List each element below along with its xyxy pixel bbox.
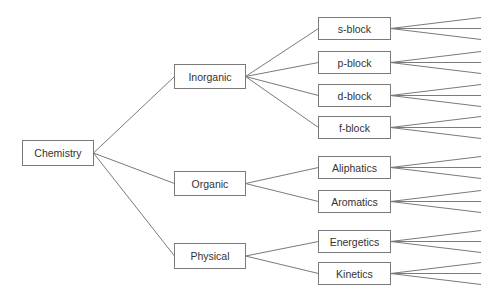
chemistry-tree-diagram: ChemistryInorganicOrganicPhysicals-block… (0, 0, 503, 300)
edges (94, 18, 482, 285)
edge-p-block-leaf-3 (391, 63, 482, 74)
node-label: d-block (338, 90, 373, 102)
node-label: Physical (190, 250, 229, 262)
node-aliphatics[interactable]: Aliphatics (319, 157, 391, 179)
node-energetics[interactable]: Energetics (319, 231, 391, 253)
edge-organic-aliphatics (246, 168, 319, 184)
edge-energetics-leaf-1 (391, 231, 482, 242)
node-label: f-block (339, 122, 371, 134)
edge-d-block-leaf-1 (391, 85, 482, 96)
node-s-block[interactable]: s-block (319, 18, 391, 40)
edge-kinetics-leaf-3 (391, 274, 482, 285)
node-f-block[interactable]: f-block (319, 117, 391, 139)
edge-f-block-leaf-3 (391, 128, 482, 139)
edge-aromatics-leaf-3 (391, 202, 482, 213)
edge-aliphatics-leaf-3 (391, 168, 482, 179)
node-label: Aliphatics (332, 162, 377, 174)
edge-inorganic-f-block (246, 77, 319, 128)
edge-aliphatics-leaf-1 (391, 157, 482, 168)
edge-kinetics-leaf-1 (391, 263, 482, 274)
edge-physical-kinetics (246, 256, 319, 274)
edge-d-block-leaf-3 (391, 96, 482, 107)
node-label: Chemistry (34, 147, 82, 159)
edge-s-block-leaf-1 (391, 18, 482, 29)
nodes: ChemistryInorganicOrganicPhysicals-block… (23, 18, 391, 285)
node-inorganic[interactable]: Inorganic (175, 65, 246, 89)
edge-energetics-leaf-3 (391, 242, 482, 253)
node-chemistry[interactable]: Chemistry (23, 141, 94, 166)
edge-chemistry-inorganic (94, 77, 175, 154)
node-label: Kinetics (336, 268, 373, 280)
edge-aromatics-leaf-1 (391, 191, 482, 202)
node-kinetics[interactable]: Kinetics (319, 263, 391, 285)
node-d-block[interactable]: d-block (319, 85, 391, 107)
node-physical[interactable]: Physical (175, 244, 246, 269)
node-label: s-block (338, 23, 372, 35)
edge-inorganic-d-block (246, 77, 319, 96)
node-label: p-block (338, 57, 373, 69)
edge-organic-aromatics (246, 184, 319, 202)
edge-f-block-leaf-1 (391, 117, 482, 128)
node-label: Organic (192, 178, 229, 190)
node-p-block[interactable]: p-block (319, 52, 391, 74)
node-aromatics[interactable]: Aromatics (319, 191, 391, 213)
edge-physical-energetics (246, 242, 319, 257)
node-label: Aromatics (331, 196, 378, 208)
node-organic[interactable]: Organic (175, 172, 246, 196)
node-label: Energetics (330, 236, 380, 248)
node-label: Inorganic (188, 71, 231, 83)
edge-p-block-leaf-1 (391, 52, 482, 63)
edge-s-block-leaf-3 (391, 29, 482, 40)
